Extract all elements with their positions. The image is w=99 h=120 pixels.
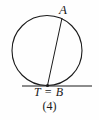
circle-shape bbox=[12, 16, 82, 86]
chord-segment-ab bbox=[48, 18, 63, 86]
point-label-t-equals-b: T = B bbox=[34, 86, 63, 98]
geometry-figure: A T = B (4) bbox=[0, 0, 99, 120]
figure-caption: (4) bbox=[0, 100, 99, 112]
point-label-a: A bbox=[59, 3, 67, 16]
